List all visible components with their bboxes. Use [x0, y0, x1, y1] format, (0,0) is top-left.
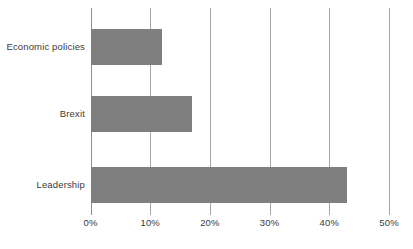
category-label-0: Economic policies: [0, 41, 85, 52]
category-label-1: Brexit: [0, 108, 85, 119]
x-axis-labels: 0% 10% 20% 30% 40% 50%: [0, 217, 413, 237]
bar-brexit: [91, 96, 192, 132]
xtick-label-5: 50%: [379, 217, 398, 228]
xtick-label-0: 0%: [83, 217, 97, 228]
category-label-2: Leadership: [0, 179, 85, 190]
plot-area: [91, 8, 390, 215]
bar-economic-policies: [91, 29, 163, 65]
gridline-50: [389, 8, 390, 215]
xtick-label-4: 40%: [320, 217, 339, 228]
category-axis-labels: Economic policies Brexit Leadership: [0, 0, 85, 249]
xtick-label-1: 10%: [140, 217, 159, 228]
xtick-label-2: 20%: [200, 217, 219, 228]
bar-chart: Economic policies Brexit Leadership 0% 1…: [0, 0, 413, 249]
bar-leadership: [91, 167, 348, 203]
xtick-label-3: 30%: [260, 217, 279, 228]
